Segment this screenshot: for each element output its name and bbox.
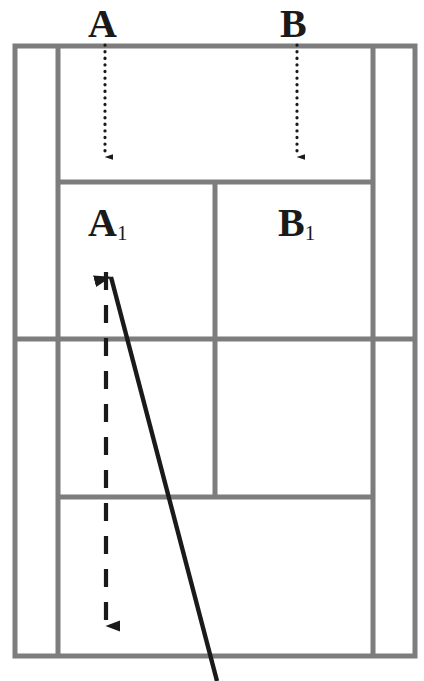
label-b: B [280, 4, 307, 44]
tennis-court-diagram: A B A1 B1 [0, 0, 424, 681]
label-b1-base: B [278, 200, 305, 245]
court-lines [15, 46, 415, 656]
court-graphic [0, 0, 424, 681]
label-a-base: A [88, 1, 117, 46]
label-b1: B1 [278, 203, 315, 243]
label-a1: A1 [88, 203, 127, 243]
label-b-base: B [280, 1, 307, 46]
trajectory-arrows [105, 45, 297, 681]
label-a1-base: A [88, 200, 117, 245]
label-a1-subscript: 1 [117, 221, 128, 245]
label-b1-subscript: 1 [305, 221, 316, 245]
label-a: A [88, 4, 117, 44]
